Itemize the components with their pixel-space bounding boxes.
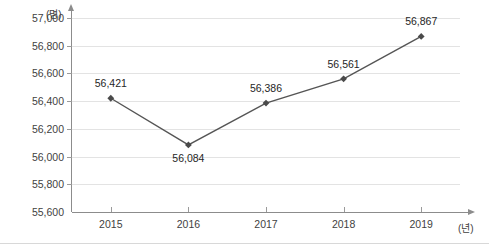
y-axis-tick bbox=[67, 18, 72, 19]
x-axis-tick bbox=[344, 207, 345, 212]
x-axis-tick bbox=[188, 207, 189, 212]
data-point-marker bbox=[340, 75, 347, 82]
y-axis-tick-label: 56,800 bbox=[32, 40, 64, 52]
data-point-label: 56,386 bbox=[250, 82, 282, 94]
x-axis-tick-label: 2016 bbox=[177, 218, 200, 230]
x-axis-tick bbox=[421, 207, 422, 212]
y-axis-tick bbox=[67, 129, 72, 130]
y-axis-tick bbox=[67, 101, 72, 102]
y-axis-tick-label: 56,000 bbox=[32, 151, 64, 163]
data-point-marker bbox=[418, 33, 425, 40]
x-axis-tick bbox=[266, 207, 267, 212]
figure-bottom-rule bbox=[0, 243, 489, 244]
x-axis-tick-label: 2017 bbox=[254, 218, 277, 230]
data-point-label: 56,561 bbox=[328, 58, 360, 70]
y-axis-tick-label: 55,800 bbox=[32, 178, 64, 190]
y-axis-tick-label: 56,400 bbox=[32, 95, 64, 107]
x-axis-tick-label: 2015 bbox=[99, 218, 122, 230]
x-axis-tick-label: 2018 bbox=[332, 218, 355, 230]
y-axis-tick bbox=[67, 184, 72, 185]
x-axis-tick-label: 2019 bbox=[410, 218, 433, 230]
data-point-label: 56,867 bbox=[405, 15, 437, 27]
data-point-marker bbox=[263, 100, 270, 107]
data-point-marker bbox=[185, 142, 192, 149]
chart-figure: (명) (년) 55,60055,80056,00056,20056,40056… bbox=[0, 0, 489, 250]
series-line bbox=[0, 0, 489, 250]
data-point-label: 56,084 bbox=[172, 152, 204, 164]
y-axis-tick bbox=[67, 157, 72, 158]
data-point-label: 56,421 bbox=[95, 77, 127, 89]
y-axis-tick-label: 56,600 bbox=[32, 67, 64, 79]
x-axis-tick bbox=[111, 207, 112, 212]
data-point-marker bbox=[107, 95, 114, 102]
y-axis-tick bbox=[67, 73, 72, 74]
y-axis-tick-label: 56,200 bbox=[32, 123, 64, 135]
y-axis-tick-label: 55,600 bbox=[32, 206, 64, 218]
y-axis-tick bbox=[67, 46, 72, 47]
y-axis-tick-label: 57,000 bbox=[32, 12, 64, 24]
